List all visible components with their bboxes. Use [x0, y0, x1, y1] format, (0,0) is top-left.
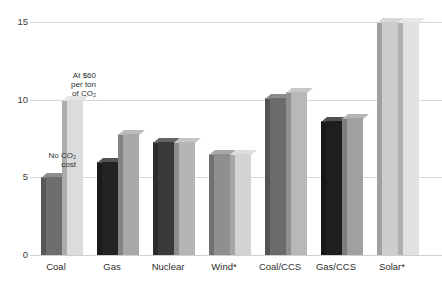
x-axis-label-wind: Wind* — [198, 262, 250, 272]
y-axis-tick-10: 10 — [4, 95, 28, 105]
gridline-0-baseline — [30, 255, 442, 256]
bar-nuclear-series2 — [179, 142, 195, 255]
bar-face — [291, 92, 307, 255]
bar-face — [46, 177, 62, 255]
bar-face — [123, 134, 139, 255]
bar-face — [67, 100, 83, 255]
bar-face — [235, 154, 251, 255]
y-axis-tick-15: 15 — [4, 17, 28, 27]
y-axis-tick-5: 5 — [4, 172, 28, 182]
bar-gas-series1 — [102, 162, 118, 255]
plot-area: CoalGasNuclearWind*Coal/CCSGas/CCSSolar*… — [30, 0, 442, 291]
bar-face — [347, 118, 363, 255]
bar-solar-series2 — [403, 22, 419, 255]
x-axis-label-coal: Coal — [30, 262, 82, 272]
bar-solar-series1 — [382, 22, 398, 255]
x-axis-label-gas: Gas — [86, 262, 138, 272]
bar-face — [270, 98, 286, 255]
annotation-at-60-per-ton: At $60 per ton of CO₂ — [46, 72, 96, 99]
bar-face — [179, 142, 195, 255]
bar-face — [158, 142, 174, 255]
bar-coal-series2 — [67, 100, 83, 255]
bar-coalccs-series2 — [291, 92, 307, 255]
bar-face — [326, 121, 342, 255]
x-axis-label-gasccs: Gas/CCS — [310, 262, 362, 272]
x-axis-label-nuclear: Nuclear — [142, 262, 194, 272]
bar-coal-series1 — [46, 177, 62, 255]
x-axis-label-solar: Solar* — [366, 262, 418, 272]
bar-chart: 15 10 5 0 CoalGasNuclearWind*Coal/CCSGas… — [0, 0, 442, 291]
bar-face — [214, 154, 230, 255]
x-axis-label-coalccs: Coal/CCS — [254, 262, 306, 272]
bar-face — [102, 162, 118, 255]
bar-face — [403, 22, 419, 255]
bar-gasccs-series1 — [326, 121, 342, 255]
bar-wind-series1 — [214, 154, 230, 255]
bar-gasccs-series2 — [347, 118, 363, 255]
bar-gas-series2 — [123, 134, 139, 255]
bar-nuclear-series1 — [158, 142, 174, 255]
bar-face — [382, 22, 398, 255]
bar-coalccs-series1 — [270, 98, 286, 255]
y-axis: 15 10 5 0 — [0, 0, 28, 291]
annotation-no-co2-cost: No CO₂ cost — [24, 152, 76, 170]
bar-wind-series2 — [235, 154, 251, 255]
y-axis-tick-0: 0 — [4, 250, 28, 260]
